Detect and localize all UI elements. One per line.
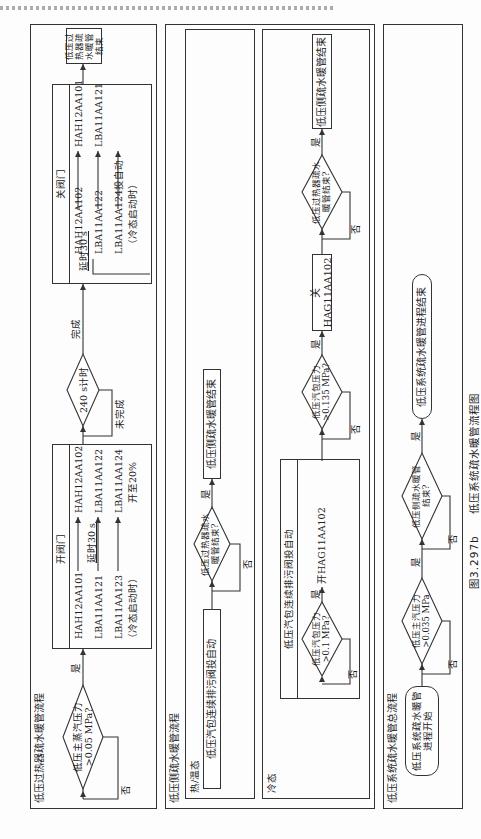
superheater-section-title: 低压过热器疏水暖管流程	[34, 693, 46, 803]
figure-number: 图3.297b	[466, 535, 481, 589]
no-label: 否	[447, 534, 459, 544]
valve-note: 开至20%	[127, 462, 139, 503]
side-section-title: 低压侧疏水暖管流程	[169, 713, 181, 803]
valve-label: LBA11AA124投自动	[113, 160, 125, 254]
close-hag-box: 关HAG11AA102	[312, 254, 332, 331]
yes-label: 是	[310, 339, 322, 349]
overall-section-title: 低压系统疏水暖管总流程	[387, 693, 399, 803]
figure-title: 低压系统疏水暖管流程图	[466, 393, 481, 514]
done-label: 完成	[70, 319, 82, 339]
cold-decision-3: 低压过热器疏水暖管结束?	[311, 160, 331, 224]
not-done-label: 未完成	[114, 399, 126, 429]
open-valves-title: 开阀门	[55, 534, 67, 564]
cold-decision-2: 低压汽包压力 >0.135 MPa?	[311, 359, 331, 425]
valve-label: LBA11AA122	[93, 190, 105, 254]
cold-subbox-title: 低压汽包连续排污阀投自动	[283, 529, 295, 649]
hot-state-title: 热/温态	[189, 760, 201, 793]
no-label: 否	[350, 224, 362, 234]
no-label: 否	[242, 559, 254, 569]
yes-label: 是	[410, 431, 422, 441]
superheater-end-box: 低压过热器疏水暖管结束	[66, 28, 102, 64]
valve-label: HAH12AA102	[73, 187, 85, 254]
yes-label: 是	[310, 137, 322, 147]
valve-label: LBA11AA122	[93, 449, 105, 513]
hot-action-box: 低压汽包连续排污阀投自动	[203, 609, 221, 789]
valve-label: HAH12AA101	[73, 572, 85, 639]
hot-end-box: 低压侧疏水暖管结束	[203, 369, 221, 479]
valve-label: LBA11AA123	[113, 575, 125, 639]
decision-main-steam-pressure: 低压主蒸汽压力 >0.05 MPa?	[72, 691, 94, 783]
overall-start-terminator: 低压系统疏水暖管进程开始	[405, 686, 439, 776]
no-label: 否	[347, 669, 359, 679]
no-label: 否	[120, 785, 132, 795]
open-hag-label: 开HAG11AA102	[316, 507, 328, 584]
hot-decision: 低压过热器疏水暖管结束?	[200, 511, 220, 577]
no-label: 否	[447, 659, 459, 669]
yes-label: 是	[410, 557, 422, 567]
yes-label: 是	[70, 663, 82, 673]
valve-label: LBA11AA121	[93, 83, 105, 147]
yes-label: 是	[310, 589, 322, 599]
valve-note: （冷态启动时）	[127, 179, 139, 249]
close-valves-title: 关阀门	[55, 169, 67, 199]
overall-end-terminator: 低压系统疏水暖管进程结束	[412, 274, 432, 419]
cold-end-box: 低压侧疏水暖管结束	[312, 34, 332, 129]
valve-label: LBA11AA121	[93, 575, 105, 639]
timer-decision: 240 s计时	[78, 360, 89, 420]
no-label: 否	[350, 424, 362, 434]
overall-decision-2: 低压侧疏水暖管结束?	[411, 463, 431, 529]
cold-decision-1: 低压汽包压力 >0.1 MPa?	[311, 607, 331, 671]
valve-note: （冷态启动时）	[127, 573, 139, 643]
valve-label: LBA11AA124	[113, 449, 125, 513]
delay-label: 延时30 s	[86, 523, 98, 563]
overall-decision-1: 低压主汽压力 >0.035 MPa	[411, 585, 431, 657]
cold-state-title: 冷态	[266, 773, 278, 793]
yes-label: 是	[200, 489, 212, 499]
valve-label: HAH12AA102	[73, 446, 85, 513]
valve-label: HAH12AA101	[73, 80, 85, 147]
